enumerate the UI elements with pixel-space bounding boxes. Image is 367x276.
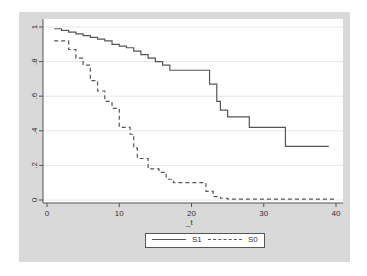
x-tick-label: 0 — [45, 209, 50, 218]
legend-label: S1 — [192, 235, 202, 244]
legend-label: S0 — [248, 235, 258, 244]
y-tick-label: .2 — [30, 162, 39, 169]
x-tick-label: 10 — [115, 209, 124, 218]
legend: S1 S0 — [145, 233, 265, 248]
legend-item-s0: S0 — [208, 235, 258, 244]
y-tick-label: 0 — [30, 197, 39, 202]
y-tick-label: .4 — [30, 127, 39, 134]
x-tick-label: 40 — [332, 209, 341, 218]
legend-item-s1: S1 — [152, 235, 202, 244]
y-tick-label: .6 — [30, 92, 39, 99]
dashed-line-icon — [208, 239, 242, 240]
x-axis-label: _t — [186, 218, 193, 227]
y-tick-label: .8 — [30, 58, 39, 65]
x-tick-label: 20 — [187, 209, 196, 218]
x-tick-label: 30 — [259, 209, 268, 218]
plot-area — [43, 19, 343, 203]
y-tick-label: 1 — [30, 24, 39, 29]
solid-line-icon — [152, 239, 186, 240]
